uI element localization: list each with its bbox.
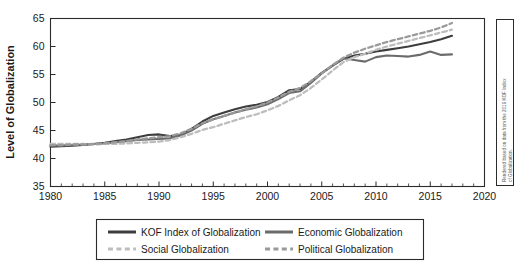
y-tick-label: 60 — [33, 40, 45, 52]
y-tick-label: 45 — [33, 124, 45, 136]
x-tick-label: 1985 — [93, 190, 117, 202]
series-lines — [51, 23, 452, 147]
y-axis-title: Level of Globalization — [4, 45, 16, 159]
x-tick-label: 2005 — [310, 190, 334, 202]
credit-line-1: Rendered based on data from the 2019 KOF… — [502, 78, 507, 182]
y-axis: 35404550556065 — [33, 12, 56, 192]
x-tick-label: 2020 — [473, 190, 497, 202]
x-tick-label: 2015 — [419, 190, 443, 202]
chart-legend: KOF Index of GlobalizationEconomic Globa… — [97, 220, 424, 260]
y-tick-label: 50 — [33, 96, 45, 108]
series-line-3 — [51, 23, 452, 145]
legend-label-3: Political Globalization — [298, 244, 393, 255]
globalization-line-chart: 35404550556065 1980198519901995200020052… — [0, 0, 520, 270]
credit-note: Rendered based on data from the 2019 KOF… — [497, 20, 514, 186]
legend-label-2: Social Globalization — [141, 244, 229, 255]
series-line-2 — [51, 30, 452, 145]
x-tick-label: 1980 — [39, 190, 63, 202]
chart-figure: 35404550556065 1980198519901995200020052… — [0, 0, 520, 270]
y-tick-label: 65 — [33, 12, 45, 24]
x-axis: 198019851990199520002005201020152020 — [39, 182, 497, 202]
legend-label-1: Economic Globalization — [298, 227, 403, 238]
legend-label-0: KOF Index of Globalization — [141, 227, 261, 238]
x-tick-label: 2010 — [364, 190, 388, 202]
series-line-1 — [51, 52, 452, 146]
credit-line-2: of Globalization. — [508, 149, 513, 182]
x-tick-label: 2000 — [256, 190, 280, 202]
y-tick-label: 40 — [33, 152, 45, 164]
y-tick-label: 55 — [33, 68, 45, 80]
x-tick-label: 1990 — [147, 190, 171, 202]
x-tick-label: 1995 — [202, 190, 226, 202]
series-line-0 — [51, 36, 452, 147]
